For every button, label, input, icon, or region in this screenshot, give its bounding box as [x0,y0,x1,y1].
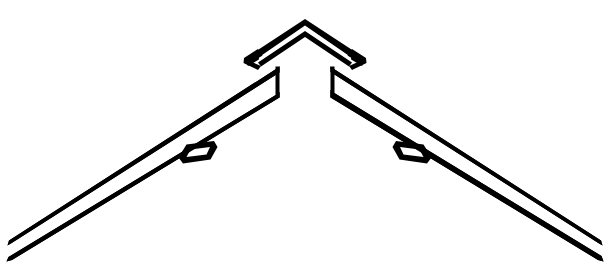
figure-canvas: Black and white technical line drawing o… [0,0,610,276]
paper-background [0,0,610,276]
roof-ridge-diagram [0,0,610,276]
